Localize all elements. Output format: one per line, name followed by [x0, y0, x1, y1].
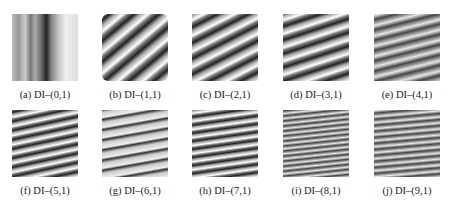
figure-panel: (a) DI–(0,1)	[0, 14, 90, 100]
panel-caption: (b) DI–(1,1)	[90, 89, 180, 100]
figure-grid: (a) DI–(0,1)(b) DI–(1,1)(c) DI–(2,1)(d) …	[0, 0, 453, 206]
pattern-image	[102, 14, 168, 81]
panel-caption: (h) DI–(7,1)	[180, 185, 270, 196]
pattern-image	[374, 110, 440, 177]
pattern-image	[102, 110, 168, 177]
panel-caption: (e) DI–(4,1)	[362, 89, 452, 100]
pattern-image	[374, 14, 440, 81]
figure-panel: (i) DI–(8,1)	[271, 110, 361, 196]
panel-caption: (d) DI–(3,1)	[271, 89, 361, 100]
figure-panel: (b) DI–(1,1)	[90, 14, 180, 100]
pattern-image	[12, 14, 78, 81]
panel-caption: (g) DI–(6,1)	[90, 185, 180, 196]
figure-panel: (f) DI–(5,1)	[0, 110, 90, 196]
figure-panel: (h) DI–(7,1)	[180, 110, 270, 196]
pattern-image	[192, 110, 258, 177]
pattern-image	[283, 14, 349, 81]
panel-caption: (i) DI–(8,1)	[271, 185, 361, 196]
figure-panel: (c) DI–(2,1)	[180, 14, 270, 100]
figure-panel: (j) DI–(9,1)	[362, 110, 452, 196]
pattern-image	[12, 110, 78, 177]
figure-panel: (d) DI–(3,1)	[271, 14, 361, 100]
panel-caption: (f) DI–(5,1)	[0, 185, 90, 196]
pattern-image	[192, 14, 258, 81]
figure-panel: (e) DI–(4,1)	[362, 14, 452, 100]
panel-caption: (j) DI–(9,1)	[362, 185, 452, 196]
figure-panel: (g) DI–(6,1)	[90, 110, 180, 196]
panel-caption: (c) DI–(2,1)	[180, 89, 270, 100]
pattern-image	[283, 110, 349, 177]
panel-caption: (a) DI–(0,1)	[0, 89, 90, 100]
